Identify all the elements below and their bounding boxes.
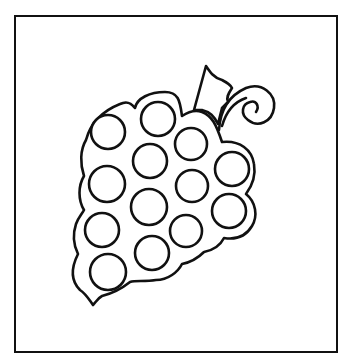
grape	[170, 215, 202, 247]
grape	[175, 128, 207, 160]
grape	[176, 170, 208, 202]
grape	[212, 194, 246, 228]
grape	[135, 236, 169, 270]
grape	[133, 144, 167, 178]
grape	[131, 189, 167, 225]
grape	[91, 115, 125, 149]
grape-stem-leaf	[194, 66, 274, 130]
grape	[89, 166, 125, 202]
grape-coloring-page	[0, 0, 349, 361]
grape	[215, 152, 249, 186]
grape	[141, 102, 175, 136]
grapes	[85, 102, 249, 290]
grape	[90, 254, 126, 290]
grape	[85, 213, 119, 247]
